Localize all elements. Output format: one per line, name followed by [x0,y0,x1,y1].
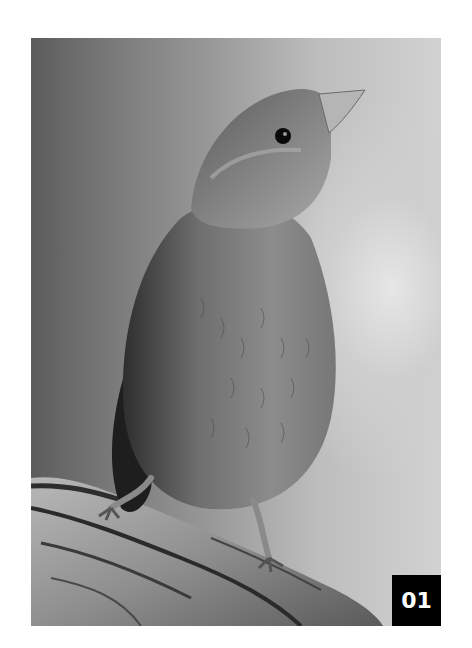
bird-head [191,89,331,228]
bird-illustration [31,38,441,626]
figure-label: 01 [401,590,432,612]
figure-label-box: 01 [392,575,441,626]
bird-photograph [31,38,441,626]
bird-body [123,201,336,510]
bird-eye [275,128,291,144]
page: 01 [0,0,472,648]
